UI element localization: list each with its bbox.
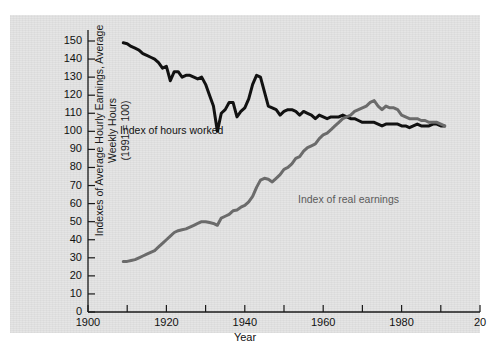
plot-area: 0102030405060708090100110120130140150 19… (88, 41, 480, 312)
y-tick-label: 50 (56, 216, 82, 227)
y-tick-label: 10 (56, 288, 82, 299)
x-tick-label: 1940 (222, 317, 268, 328)
x-tick-label: 1980 (379, 317, 425, 328)
y-tick-label: 140 (56, 53, 82, 64)
y-tick-label: 80 (56, 161, 82, 172)
y-tick-label: 70 (56, 180, 82, 191)
y-tick-label: 120 (56, 89, 82, 100)
x-tick-label: 1900 (65, 317, 111, 328)
data-series-group (123, 43, 444, 262)
chart-figure-panel: Indexes of Average Hourly Earnings, Aver… (10, 15, 480, 333)
x-axis-title: Year (10, 331, 480, 343)
chart-canvas (88, 41, 480, 312)
series-label-hours-worked: Index of hours worked (120, 124, 223, 136)
x-tick-label: 20 (457, 317, 495, 328)
y-tick-label: 90 (56, 143, 82, 154)
y-tick-label: 150 (56, 35, 82, 46)
y-tick-label: 130 (56, 71, 82, 82)
y-tick-label: 30 (56, 252, 82, 263)
y-tick-label: 40 (56, 234, 82, 245)
x-axis-ticks (88, 305, 480, 312)
y-tick-label: 100 (56, 125, 82, 136)
y-tick-label: 20 (56, 270, 82, 281)
y-tick-label: 60 (56, 198, 82, 209)
x-tick-label: 1960 (300, 317, 346, 328)
x-tick-label: 1920 (143, 317, 189, 328)
series-label-real-earnings: Index of real earnings (298, 193, 399, 205)
y-axis-ticks (88, 41, 95, 312)
y-tick-label: 110 (56, 107, 82, 118)
series-line-index-of-hours-worked (123, 43, 444, 132)
